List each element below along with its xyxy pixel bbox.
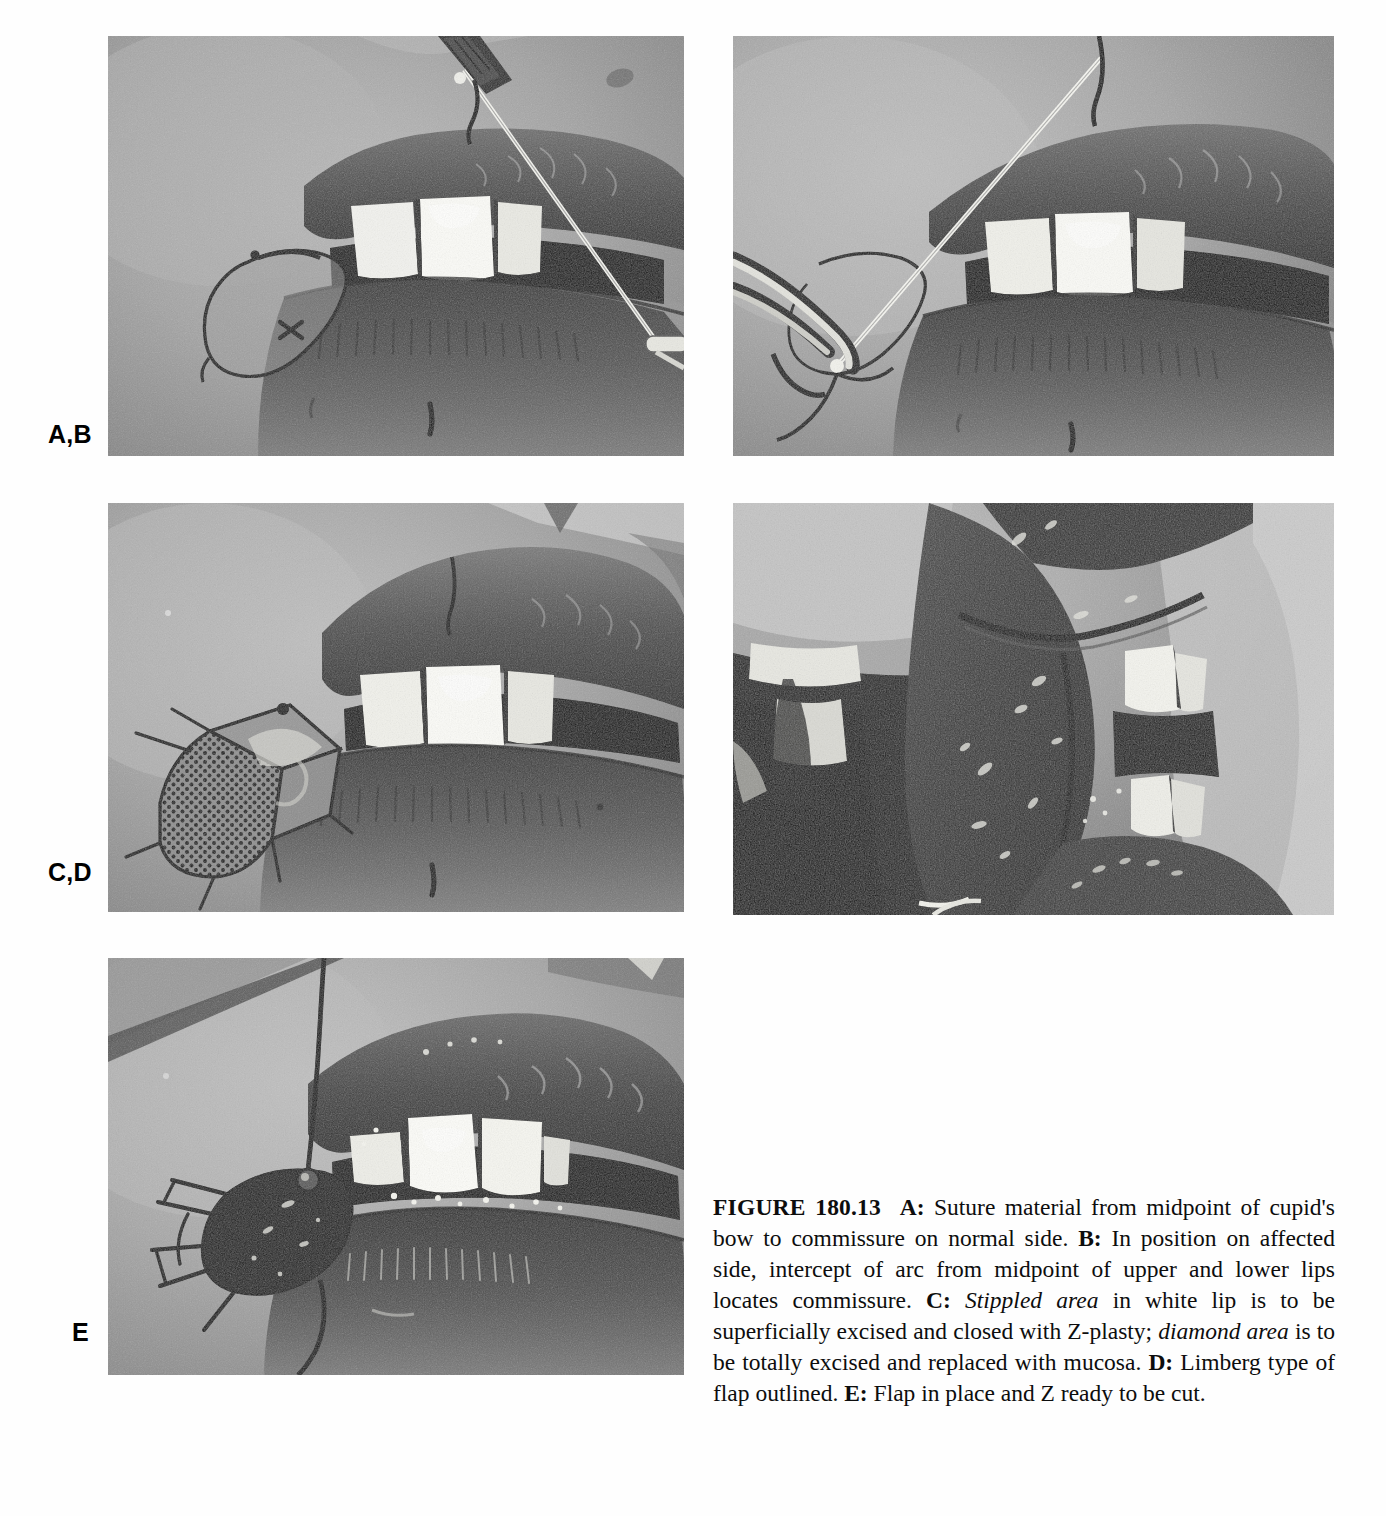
figure-panel-e: [108, 958, 684, 1375]
figure-panel-b: [733, 36, 1334, 456]
panel-a-photograph: [108, 36, 684, 456]
figure-panel-c: [108, 503, 684, 912]
panel-row-label-e: E: [72, 1318, 89, 1347]
panel-c-photograph: [108, 503, 684, 912]
caption-panel-a-id: A:: [900, 1194, 925, 1220]
panel-e-photograph: [108, 958, 684, 1375]
caption-panel-e-text: Flap in place and Z ready to be cut.: [868, 1380, 1206, 1406]
panel-b-photograph: [733, 36, 1334, 456]
caption-panel-e-id: E:: [844, 1380, 868, 1406]
caption-panel-d-id: D:: [1148, 1349, 1173, 1375]
caption-panel-b-id: B:: [1078, 1225, 1102, 1251]
panel-row-label-cd: C,D: [48, 858, 92, 887]
panel-d-photograph: [733, 503, 1334, 915]
caption-stippled-area-emphasis: Stippled area: [965, 1287, 1098, 1313]
caption-diamond-area-emphasis: diamond area: [1158, 1318, 1289, 1344]
figure-panel-d: [733, 503, 1334, 915]
caption-panel-c-id: C:: [926, 1287, 951, 1313]
figure-number: FIGURE 180.13: [713, 1194, 881, 1220]
figure-caption: FIGURE 180.13 A: Suture material from mi…: [713, 1192, 1335, 1409]
figure-page: A,B C,D E FIGURE 180.13 A: Suture materi…: [0, 0, 1386, 1516]
panel-row-label-ab: A,B: [48, 420, 92, 449]
figure-panel-a: [108, 36, 684, 456]
